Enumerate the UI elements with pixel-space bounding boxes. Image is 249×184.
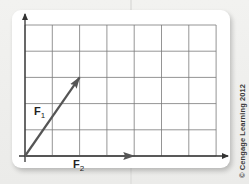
f2-subscript: 2	[80, 164, 84, 173]
f1-subscript: 1	[41, 111, 45, 120]
vector-label-f1: F1	[34, 105, 45, 120]
axes	[19, 14, 228, 162]
vector-diagram	[0, 0, 249, 184]
copyright-notice: © Cengage Learning 2012	[238, 84, 247, 178]
f1-letter: F	[34, 105, 41, 117]
grid	[25, 25, 216, 156]
f2-letter: F	[73, 158, 80, 170]
vector-label-f2: F2	[73, 158, 84, 173]
